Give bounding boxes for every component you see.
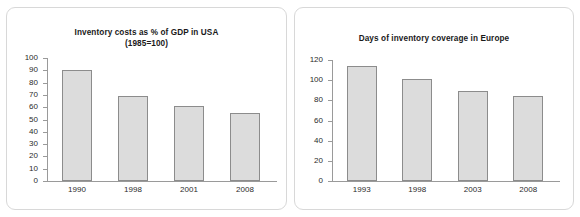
y-tick-label: 60	[314, 117, 323, 125]
y-tick-0-6: 60	[43, 107, 47, 108]
plot-area-right: 020406080100120 1993199820032008	[332, 60, 554, 182]
x-tick-label: 2008	[519, 186, 537, 194]
chart-title-left: Inventory costs as % of GDP in USA (1985…	[7, 27, 286, 49]
y-tick-label: 0	[34, 177, 38, 185]
bar: 1993	[347, 66, 377, 181]
y-tick-0-9: 90	[43, 70, 47, 71]
bar: 2001	[174, 106, 204, 181]
y-tick-1-3: 60	[328, 121, 332, 122]
y-axis-right	[332, 60, 333, 182]
bar: 2008	[513, 96, 543, 181]
y-tick-0-7: 70	[43, 95, 47, 96]
chart-title-right: Days of inventory coverage in Europe	[295, 33, 573, 44]
y-tick-0-5: 50	[43, 120, 47, 121]
x-tick-label: 1998	[124, 186, 142, 194]
y-tick-0-2: 20	[43, 156, 47, 157]
x-tick-label: 2008	[236, 186, 254, 194]
bar: 2003	[458, 91, 488, 181]
y-tick-label: 10	[29, 165, 38, 173]
chart-panel-inventory-costs-usa: Inventory costs as % of GDP in USA (1985…	[6, 7, 287, 210]
y-tick-1-5: 100	[328, 80, 332, 81]
plot-area-left: 0102030405060708090100 1990199820012008	[47, 58, 271, 182]
bar: 1990	[62, 70, 92, 181]
y-tick-label: 20	[314, 157, 323, 165]
y-tick-label: 80	[314, 96, 323, 104]
y-tick-label: 20	[29, 152, 38, 160]
y-tick-1-1: 20	[328, 161, 332, 162]
y-tick-label: 120	[310, 56, 323, 64]
bar: 1998	[118, 96, 148, 181]
y-tick-0-4: 40	[43, 132, 47, 133]
chart-panel-inventory-coverage-europe: Days of inventory coverage in Europe 020…	[294, 7, 574, 210]
y-tick-label: 100	[310, 76, 323, 84]
figure-container: Inventory costs as % of GDP in USA (1985…	[0, 0, 580, 217]
y-tick-label: 90	[29, 66, 38, 74]
y-tick-label: 40	[29, 128, 38, 136]
x-axis-left	[47, 181, 277, 182]
y-tick-1-0: 0	[328, 181, 332, 182]
y-tick-1-2: 40	[328, 141, 332, 142]
x-axis-right	[332, 181, 560, 182]
y-tick-0-3: 30	[43, 144, 47, 145]
x-tick-label: 1990	[68, 186, 86, 194]
y-tick-0-0: 0	[43, 181, 47, 182]
y-tick-label: 30	[29, 140, 38, 148]
x-tick-label: 2003	[464, 186, 482, 194]
bar: 1998	[402, 79, 432, 181]
x-tick-label: 1998	[408, 186, 426, 194]
y-tick-1-6: 120	[328, 60, 332, 61]
x-tick-label: 2001	[180, 186, 198, 194]
y-tick-0-1: 10	[43, 169, 47, 170]
y-tick-label: 0	[319, 177, 323, 185]
y-tick-label: 40	[314, 137, 323, 145]
bar: 2008	[230, 113, 260, 181]
y-tick-label: 100	[25, 54, 38, 62]
y-tick-label: 50	[29, 116, 38, 124]
y-tick-label: 70	[29, 91, 38, 99]
y-tick-0-8: 80	[43, 83, 47, 84]
y-tick-label: 60	[29, 103, 38, 111]
x-tick-label: 1993	[353, 186, 371, 194]
y-tick-0-10: 100	[43, 58, 47, 59]
y-tick-label: 80	[29, 79, 38, 87]
y-tick-1-4: 80	[328, 100, 332, 101]
y-axis-left	[47, 58, 48, 182]
